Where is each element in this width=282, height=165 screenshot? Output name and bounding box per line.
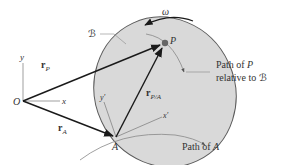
x-axis-label: x <box>61 96 66 106</box>
omega-label: ω <box>162 6 169 17</box>
point-p-label: P <box>169 35 176 46</box>
relative-motion-diagram: ω ℬ y x O y′ x′ rP rA rP/A P A Path of P… <box>0 0 282 165</box>
point-a-label: A <box>111 141 119 152</box>
path-p-label-line2: relative to ℬ <box>216 72 267 83</box>
y-axis-label: y <box>19 52 24 62</box>
x-prime-label: x′ <box>162 111 169 120</box>
path-p-label-line1: Path of P <box>216 59 253 70</box>
body-label-b: ℬ <box>88 28 96 39</box>
origin-label: O <box>13 96 20 107</box>
point-p <box>162 40 168 46</box>
vector-ra-label: rA <box>58 122 67 136</box>
y-prime-label: y′ <box>99 93 106 102</box>
path-a-label: Path of A <box>182 141 220 152</box>
vector-rp-label: rP <box>41 59 50 73</box>
